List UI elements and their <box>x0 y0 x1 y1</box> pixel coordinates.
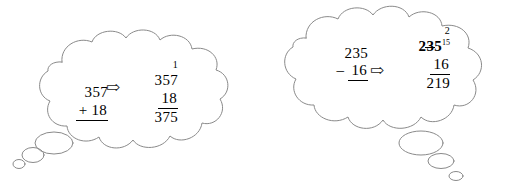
subtraction-after-problem: 2 23515 16 219 <box>400 26 450 92</box>
addition-thought-bubble: 357 +18 ⇨ 1 357 18 375 <box>0 0 259 195</box>
transformation-arrow-icon: ⇨ <box>370 62 384 79</box>
subtraction-math-layer: 235 –16 ⇨ 2 23515 16 219 <box>258 0 517 195</box>
subtraction-before-subtrahend-row: –16 <box>314 62 368 80</box>
subtraction-after-difference: 219 <box>400 75 450 92</box>
subtraction-before-problem: 235 –16 <box>314 33 368 81</box>
addition-before-addend1: 357 <box>56 84 108 101</box>
minuend-tens-digit-struck: 3 <box>426 38 434 55</box>
addition-before-carry <box>56 72 108 84</box>
subtraction-after-minuend-regrouped: 23515 <box>400 38 450 55</box>
subtraction-before-minuend: 235 <box>314 45 368 62</box>
addition-after-addend1: 357 <box>132 72 178 89</box>
addition-after-carry: 1 <box>132 60 178 72</box>
transformation-arrow-icon: ⇨ <box>106 79 120 96</box>
minuend-ones-digit: 5 <box>434 38 442 54</box>
subtraction-before-carry <box>314 33 368 45</box>
regroup-superscript: 15 <box>442 38 450 47</box>
subtraction-thought-bubble: 235 –16 ⇨ 2 23515 16 219 <box>258 0 517 195</box>
addition-before-addend2-row: +18 <box>76 102 108 120</box>
addition-before-addend2: 18 <box>91 102 107 118</box>
addition-after-addend2: 18 <box>158 90 178 108</box>
addition-math-layer: 357 +18 ⇨ 1 357 18 375 <box>0 0 259 195</box>
subtraction-operator-minus: – <box>337 62 345 79</box>
subtraction-before-subtrahend: 16 <box>348 62 368 80</box>
addition-before-problem: 357 +18 <box>56 72 108 121</box>
addition-operator-plus: + <box>79 102 88 119</box>
subtraction-after-carry: 2 <box>400 26 450 38</box>
subtraction-after-subtrahend: 16 <box>430 56 450 74</box>
addition-after-problem: 1 357 18 375 <box>132 60 178 126</box>
illustration-canvas: 357 +18 ⇨ 1 357 18 375 <box>0 0 517 195</box>
addition-after-sum: 375 <box>132 109 178 126</box>
